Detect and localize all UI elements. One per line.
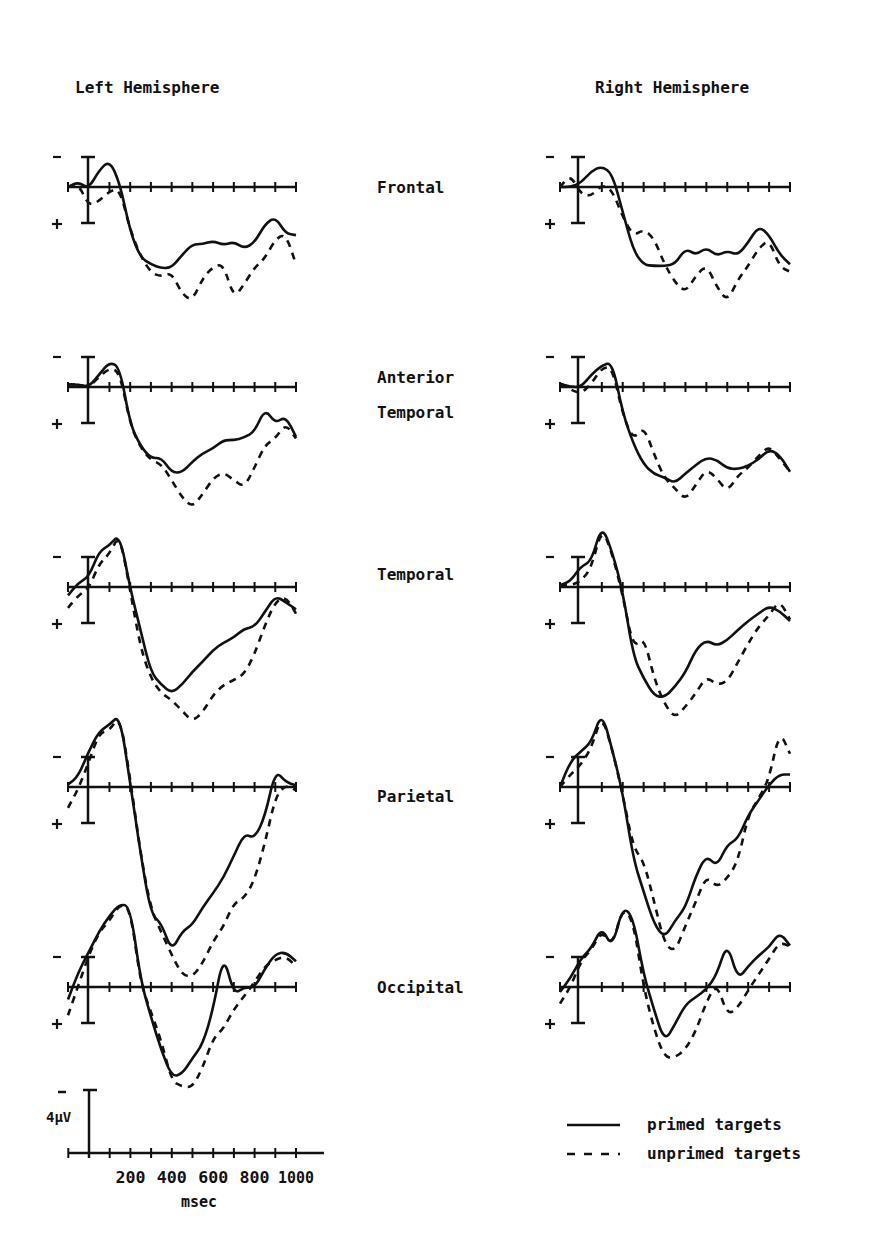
x-tick-label: 600 xyxy=(198,1169,228,1187)
primed-waveform xyxy=(560,533,790,697)
unprimed-waveform xyxy=(68,369,296,504)
legend: primed targets unprimed targets xyxy=(567,1115,801,1163)
panel-left-occipital xyxy=(52,905,296,1087)
row-label-occipital: Occipital xyxy=(377,978,464,997)
legend-unprimed: unprimed targets xyxy=(647,1144,801,1163)
x-tick-label: 1000 xyxy=(278,1169,314,1187)
primed-waveform xyxy=(68,164,296,268)
calibration-label: 4µV xyxy=(46,1109,72,1125)
panel-left-frontal xyxy=(52,157,296,298)
waveform-panels xyxy=(52,157,790,1087)
primed-waveform xyxy=(68,719,296,945)
column-header-left: Left Hemisphere xyxy=(75,78,220,97)
x-tick-label: 200 xyxy=(115,1169,145,1187)
legend-primed: primed targets xyxy=(647,1115,782,1134)
panel-left-anterior-temporal xyxy=(52,357,296,505)
panel-right-parietal xyxy=(545,720,790,949)
unprimed-waveform xyxy=(68,185,296,298)
erp-figure: Left Hemisphere Right Hemisphere Frontal… xyxy=(0,0,872,1255)
x-axis-label: msec xyxy=(181,1193,217,1211)
unprimed-waveform xyxy=(560,178,790,297)
primed-waveform xyxy=(68,364,296,473)
row-label-anterior: Anterior xyxy=(377,368,454,387)
row-label-temporal: Temporal xyxy=(377,565,454,584)
primed-waveform xyxy=(560,911,790,1036)
unprimed-waveform xyxy=(560,723,790,949)
calibration-axis: 4µV 2004006008001000 msec xyxy=(46,1090,324,1211)
unprimed-waveform xyxy=(68,541,296,719)
panel-right-temporal xyxy=(545,533,790,715)
primed-waveform xyxy=(560,364,790,482)
primed-waveform xyxy=(560,720,790,934)
row-label-parietal: Parietal xyxy=(377,787,454,806)
row-label-anterior-temporal: Temporal xyxy=(377,403,454,422)
column-header-right: Right Hemisphere xyxy=(595,78,749,97)
panel-right-anterior-temporal xyxy=(545,357,790,497)
unprimed-waveform xyxy=(68,721,296,976)
panel-left-temporal xyxy=(52,539,296,719)
x-tick-label: 800 xyxy=(240,1169,270,1187)
primed-waveform xyxy=(560,168,790,266)
panel-right-frontal xyxy=(545,157,790,297)
row-label-frontal: Frontal xyxy=(377,178,444,197)
unprimed-waveform xyxy=(560,912,790,1057)
panel-left-parietal xyxy=(52,719,296,976)
x-tick-label: 400 xyxy=(157,1169,187,1187)
